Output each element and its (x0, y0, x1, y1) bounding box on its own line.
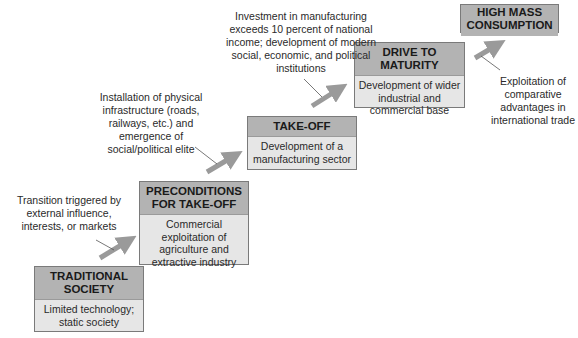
arrow-up-right-icon (475, 45, 500, 70)
arrow-up-right-icon (96, 240, 128, 258)
arrows-layer (0, 0, 578, 338)
arrow-up-right-icon (304, 79, 339, 106)
arrow-up-right-icon (195, 147, 234, 172)
